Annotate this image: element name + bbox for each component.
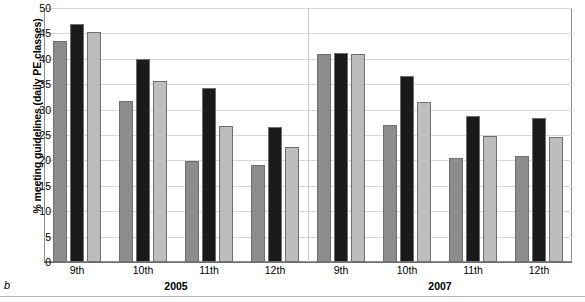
bars-layer bbox=[44, 8, 572, 262]
bar bbox=[268, 127, 282, 262]
x-axis-line bbox=[44, 262, 572, 263]
bar bbox=[351, 54, 365, 262]
x-tick-label: 12th bbox=[265, 264, 285, 276]
x-tick-label: 9th bbox=[70, 264, 85, 276]
bar bbox=[153, 81, 167, 262]
y-tick-label: 10 bbox=[21, 205, 51, 217]
panel-labels: 20052007 bbox=[44, 280, 572, 296]
bar bbox=[136, 59, 150, 262]
y-tick-label: 25 bbox=[21, 129, 51, 141]
bar bbox=[87, 32, 101, 262]
bar-chart: % meeting guidelines (daily PE classes) … bbox=[0, 0, 585, 302]
footer-divider bbox=[0, 296, 585, 297]
figure-letter: b bbox=[4, 279, 10, 291]
y-tick-label: 50 bbox=[21, 2, 51, 14]
x-tick-label: 11th bbox=[199, 264, 219, 276]
bar bbox=[449, 158, 463, 262]
bar bbox=[532, 118, 546, 262]
bar bbox=[515, 156, 529, 262]
bar bbox=[185, 161, 199, 262]
bar bbox=[400, 76, 414, 262]
bar bbox=[383, 125, 397, 262]
plot-area bbox=[44, 8, 572, 262]
y-tick-label: 40 bbox=[21, 53, 51, 65]
bar bbox=[119, 101, 133, 262]
bar bbox=[202, 88, 216, 262]
y-tick-label: 20 bbox=[21, 154, 51, 166]
bar bbox=[317, 54, 331, 262]
y-tick-label: 35 bbox=[21, 78, 51, 90]
y-tick-label: 15 bbox=[21, 180, 51, 192]
bar bbox=[417, 102, 431, 262]
y-tick-label: 30 bbox=[21, 104, 51, 116]
x-tick-label: 12th bbox=[529, 264, 549, 276]
bar bbox=[334, 53, 348, 262]
bar bbox=[251, 165, 265, 262]
panel-label: 2007 bbox=[428, 280, 451, 292]
y-tick-label: 45 bbox=[21, 27, 51, 39]
bar bbox=[285, 147, 299, 262]
x-tick-label: 10th bbox=[133, 264, 153, 276]
panel-label: 2005 bbox=[164, 280, 187, 292]
x-tick-label: 9th bbox=[334, 264, 349, 276]
bar bbox=[219, 126, 233, 262]
x-axis-tick-labels: 9th10th11th12th9th10th11th12th bbox=[44, 264, 572, 280]
x-tick-label: 11th bbox=[463, 264, 483, 276]
bar bbox=[466, 116, 480, 262]
bar bbox=[70, 24, 84, 262]
bar bbox=[53, 41, 67, 262]
x-tick-label: 10th bbox=[397, 264, 417, 276]
y-tick-label: 5 bbox=[21, 231, 51, 243]
bar bbox=[483, 136, 497, 262]
bar bbox=[549, 137, 563, 262]
